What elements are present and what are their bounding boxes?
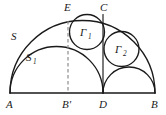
label-gamma1: Γ 1 bbox=[79, 26, 92, 41]
label-d: D bbox=[98, 98, 107, 110]
circle-gamma1 bbox=[70, 15, 105, 50]
label-s1: S 1 bbox=[26, 51, 37, 66]
circle-gamma2 bbox=[104, 32, 139, 67]
label-gamma1-subscript: 1 bbox=[88, 33, 92, 41]
label-b-prime: B' bbox=[62, 98, 72, 110]
geometry-figure: A B' D B E C S S 1 Γ 1 Γ 2 bbox=[0, 0, 166, 115]
arc-s2-small-semicircle bbox=[103, 67, 155, 93]
label-s1-base: S bbox=[26, 51, 32, 63]
label-gamma1-base: Γ bbox=[79, 26, 87, 38]
figure-canvas: A B' D B E C S S 1 Γ 1 Γ 2 bbox=[0, 0, 166, 115]
label-gamma2-base: Γ bbox=[114, 43, 122, 55]
arc-s1-inner-semicircle bbox=[10, 47, 103, 94]
label-s: S bbox=[11, 30, 17, 42]
label-e: E bbox=[63, 1, 71, 13]
label-b: B bbox=[151, 98, 158, 110]
label-s1-subscript: 1 bbox=[33, 58, 37, 66]
label-gamma2: Γ 2 bbox=[114, 43, 127, 58]
label-a: A bbox=[5, 98, 13, 110]
label-gamma2-subscript: 2 bbox=[123, 50, 127, 58]
label-c: C bbox=[100, 1, 108, 13]
